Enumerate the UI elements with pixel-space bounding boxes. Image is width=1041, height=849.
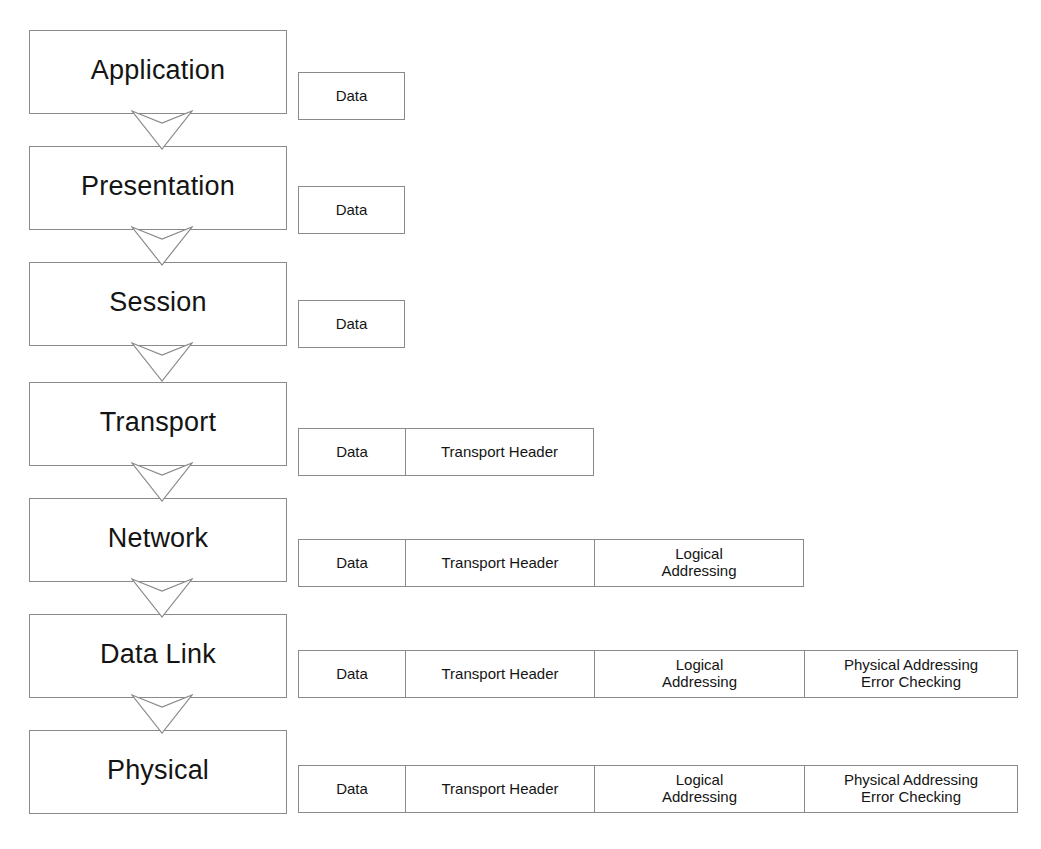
packet-cell[interactable]: Data — [298, 72, 405, 120]
layer-label: Presentation — [81, 173, 235, 200]
packet-cell-label: Physical Addressing Error Checking — [840, 772, 982, 806]
packet-row-transport: DataTransport Header — [298, 428, 594, 476]
layer-box-network[interactable]: Network — [29, 498, 287, 582]
packet-cell[interactable]: Physical Addressing Error Checking — [804, 765, 1018, 813]
packet-cell-label: Logical Addressing — [657, 546, 740, 580]
layer-box-physical[interactable]: Physical — [29, 730, 287, 814]
packet-row-network: DataTransport HeaderLogical Addressing — [298, 539, 804, 587]
packet-cell[interactable]: Data — [298, 539, 405, 587]
packet-cell-label: Data — [332, 202, 372, 219]
packet-cell[interactable]: Transport Header — [405, 428, 594, 476]
packet-cell[interactable]: Logical Addressing — [594, 765, 804, 813]
packet-cell[interactable]: Logical Addressing — [594, 539, 804, 587]
packet-cell[interactable]: Data — [298, 650, 405, 698]
layer-box-presentation[interactable]: Presentation — [29, 146, 287, 230]
flow-arrow-transport-to-network — [131, 462, 193, 502]
packet-cell-label: Logical Addressing — [658, 772, 741, 806]
flow-arrow-session-to-transport — [131, 342, 193, 382]
layer-box-data-link[interactable]: Data Link — [29, 614, 287, 698]
packet-cell[interactable]: Data — [298, 186, 405, 234]
layer-label: Transport — [100, 409, 216, 436]
flow-arrow-network-to-data-link — [131, 578, 193, 618]
packet-cell-label: Data — [332, 666, 372, 683]
packet-cell-label: Physical Addressing Error Checking — [840, 657, 982, 691]
osi-encapsulation-diagram: ApplicationPresentationSessionTransportN… — [0, 0, 1041, 849]
packet-row-physical: DataTransport HeaderLogical AddressingPh… — [298, 765, 1018, 813]
packet-cell-label: Transport Header — [438, 666, 563, 683]
layer-box-session[interactable]: Session — [29, 262, 287, 346]
layer-label: Session — [109, 289, 206, 316]
layer-box-application[interactable]: Application — [29, 30, 287, 114]
packet-cell[interactable]: Transport Header — [405, 650, 594, 698]
packet-cell-label: Logical Addressing — [658, 657, 741, 691]
packet-cell-label: Transport Header — [438, 555, 563, 572]
layer-label: Data Link — [100, 641, 216, 668]
packet-row-presentation: Data — [298, 186, 405, 234]
flow-arrow-data-link-to-physical — [131, 694, 193, 734]
layer-box-transport[interactable]: Transport — [29, 382, 287, 466]
packet-row-data-link: DataTransport HeaderLogical AddressingPh… — [298, 650, 1018, 698]
flow-arrow-presentation-to-session — [131, 226, 193, 266]
packet-cell[interactable]: Transport Header — [405, 539, 594, 587]
packet-cell-label: Data — [332, 88, 372, 105]
packet-cell[interactable]: Data — [298, 300, 405, 348]
packet-cell[interactable]: Transport Header — [405, 765, 594, 813]
packet-cell[interactable]: Physical Addressing Error Checking — [804, 650, 1018, 698]
packet-row-application: Data — [298, 72, 405, 120]
layer-label: Physical — [107, 757, 209, 784]
packet-cell-label: Data — [332, 555, 372, 572]
layer-label: Network — [108, 525, 208, 552]
packet-cell[interactable]: Data — [298, 428, 405, 476]
packet-cell-label: Transport Header — [437, 444, 562, 461]
packet-cell-label: Data — [332, 781, 372, 798]
layer-label: Application — [91, 57, 225, 84]
packet-cell-label: Transport Header — [438, 781, 563, 798]
packet-cell[interactable]: Logical Addressing — [594, 650, 804, 698]
packet-row-session: Data — [298, 300, 405, 348]
packet-cell[interactable]: Data — [298, 765, 405, 813]
flow-arrow-application-to-presentation — [131, 110, 193, 150]
packet-cell-label: Data — [332, 444, 372, 461]
packet-cell-label: Data — [332, 316, 372, 333]
